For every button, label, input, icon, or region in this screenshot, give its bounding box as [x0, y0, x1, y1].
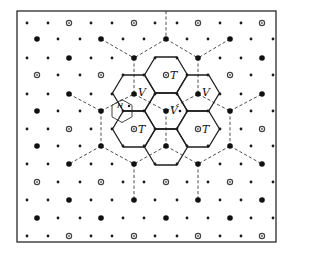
- lattice-dot-small: [250, 74, 253, 77]
- lattice-dot-small: [90, 199, 93, 202]
- lattice-dot-large: [227, 215, 233, 221]
- lattice-dot-small: [272, 145, 275, 148]
- lattice-dot-small: [26, 93, 29, 96]
- site-labels: TTTVVVH: [116, 69, 211, 136]
- lattice-dot-small: [272, 38, 275, 41]
- dashed-line: [101, 146, 134, 164]
- lattice-dot-small: [186, 181, 189, 184]
- lattice-dot-small: [207, 145, 210, 148]
- lattice-dot-small: [176, 128, 179, 131]
- lattice-dot-small: [79, 145, 82, 148]
- lattice-dot-small: [143, 74, 146, 77]
- lattice-dot-small: [186, 38, 189, 41]
- lattice-ring-core: [133, 128, 135, 130]
- lattice-dot-small: [26, 128, 29, 131]
- lattice-dot-small: [57, 38, 60, 41]
- lattice-dot-small: [90, 93, 93, 96]
- lattice-dot-small: [57, 217, 60, 220]
- label-v: V: [138, 86, 147, 99]
- v-side-dot: [179, 110, 182, 113]
- lattice-dot-large: [259, 91, 265, 97]
- lattice-dot-large: [34, 108, 40, 114]
- lattice-dot-large: [195, 197, 201, 203]
- lattice-dot-small: [154, 199, 157, 202]
- lattice-dot-small: [176, 163, 179, 166]
- lattice-dot-large: [34, 36, 40, 42]
- lattice-dot-large: [259, 197, 265, 203]
- lattice-dot-large: [131, 91, 137, 97]
- lattice-ring-core: [261, 22, 263, 24]
- lattice-dot-small: [272, 110, 275, 113]
- dashed-line: [198, 39, 230, 58]
- dashed-line: [69, 94, 101, 111]
- h-site-dot: [128, 105, 130, 107]
- lattice-dot-large: [66, 55, 72, 61]
- lattice-dot-small: [111, 163, 114, 166]
- lattice-dot-small: [250, 110, 253, 113]
- lattice-ring-core: [229, 181, 231, 183]
- lattice-dot-small: [176, 235, 179, 238]
- lattice-ring-core: [68, 235, 70, 237]
- lattice-dot-small: [111, 199, 114, 202]
- lattice-dot-large: [259, 161, 265, 167]
- lattice-dot-large: [163, 215, 169, 221]
- lattice-dot-large: [131, 197, 137, 203]
- label-t: T: [170, 69, 179, 82]
- label-v: V: [170, 104, 179, 117]
- lattice-dot-small: [26, 199, 29, 202]
- lattice-dot-small: [57, 110, 60, 113]
- dashed-line: [198, 146, 230, 164]
- lattice-ring-core: [68, 22, 70, 24]
- lattice-dot-small: [240, 57, 243, 60]
- lattice-dot-small: [219, 93, 222, 96]
- dashed-line: [230, 94, 262, 111]
- lattice-points: [26, 20, 275, 238]
- lattice-dot-small: [90, 128, 93, 131]
- lattice-dot-small: [219, 199, 222, 202]
- lattice-dot-small: [122, 145, 125, 148]
- lattice-dot-small: [154, 235, 157, 238]
- lattice-dot-small: [26, 22, 29, 25]
- lattice-dot-small: [143, 110, 146, 113]
- lattice-dot-small: [90, 57, 93, 60]
- lattice-dot-small: [143, 38, 146, 41]
- lattice-dot-small: [154, 57, 157, 60]
- lattice-dot-small: [219, 57, 222, 60]
- dashed-line: [69, 146, 101, 164]
- lattice-ring-core: [100, 181, 102, 183]
- lattice-dot-small: [219, 128, 222, 131]
- lattice-ring-core: [229, 74, 231, 76]
- lattice-dot-small: [122, 217, 125, 220]
- lattice-dot-small: [47, 128, 50, 131]
- lattice-dot-small: [154, 22, 157, 25]
- lattice-dot-large: [98, 215, 104, 221]
- lattice-dot-small: [207, 181, 210, 184]
- lattice-ring-core: [197, 22, 199, 24]
- lattice-dot-small: [143, 217, 146, 220]
- label-t: T: [138, 123, 147, 136]
- lattice-dot-large: [227, 36, 233, 42]
- lattice-dot-small: [47, 199, 50, 202]
- label-t: T: [202, 123, 211, 136]
- lattice-dot-small: [122, 74, 125, 77]
- lattice-dot-small: [219, 22, 222, 25]
- lattice-dot-small: [240, 93, 243, 96]
- lattice-dot-small: [240, 199, 243, 202]
- lattice-dot-small: [57, 145, 60, 148]
- lattice-dot-large: [131, 55, 137, 61]
- lattice-ring-core: [197, 128, 199, 130]
- lattice-dot-large: [34, 215, 40, 221]
- lattice-ring-core: [261, 128, 263, 130]
- lattice-dot-small: [79, 110, 82, 113]
- lattice-dot-small: [79, 181, 82, 184]
- lattice-dot-small: [26, 163, 29, 166]
- lattice-dot-small: [154, 93, 157, 96]
- lattice-dot-small: [207, 74, 210, 77]
- lattice-dot-small: [111, 57, 114, 60]
- lattice-dot-small: [122, 110, 125, 113]
- lattice-dot-large: [195, 161, 201, 167]
- lattice-dot-large: [227, 108, 233, 114]
- lattice-ring-core: [133, 235, 135, 237]
- lattice-dot-small: [47, 22, 50, 25]
- dashed-line: [166, 39, 198, 58]
